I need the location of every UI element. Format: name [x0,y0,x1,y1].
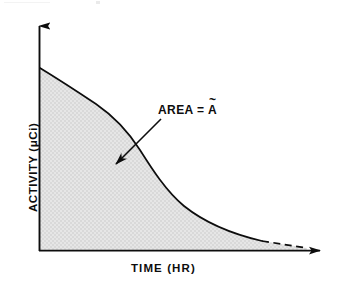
area-fill-region [40,68,307,251]
plot-canvas [0,0,339,282]
area-annotation-label: AREA = ~A [158,103,217,117]
activity-vs-time-figure: ACTIVITY (μCi) TIME (HR) AREA = ~A [0,0,339,282]
y-axis-label: ACTIVITY (μCi) [27,123,39,212]
x-axis-label: TIME (HR) [131,262,196,274]
tilde-accent: ~ [208,96,217,104]
area-annotation-prefix: AREA = [158,103,208,117]
area-symbol-a-tilde: ~A [208,103,217,117]
